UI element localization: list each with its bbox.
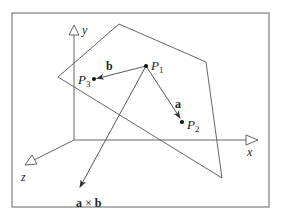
z-axis-arrowhead-icon [25,155,37,165]
x-axis-label: x [246,145,253,159]
y-axis-label: y [81,23,88,37]
vector-a-label: a [175,97,181,111]
vector-b-label: b [106,59,113,73]
z-axis-label: z [20,170,26,184]
y-axis-arrowhead-icon [69,25,79,35]
plane-polygon [58,24,222,178]
plane-normal-diagram: y x z P1 P3 P2 b a a×b [0,0,282,224]
cross-product-label: a×b [76,196,102,210]
vector-b [97,66,146,79]
point-p2 [180,120,184,124]
point-p1 [144,64,148,68]
p3-label: P3 [77,72,91,89]
p2-label: P2 [186,117,199,134]
point-p3 [92,77,96,81]
x-axis-arrowhead-icon [246,135,258,145]
figure-frame [12,13,269,207]
z-axis [25,140,74,165]
p1-label: P1 [150,58,163,75]
